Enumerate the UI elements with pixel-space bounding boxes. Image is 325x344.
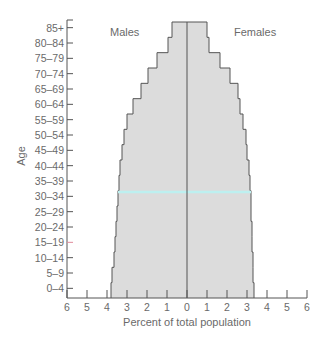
legend-males-label: Males <box>110 26 140 38</box>
y-tick-label: 30–34 <box>35 190 64 202</box>
population-pyramid-chart: 0–45–910–1415–1920–2425–2930–3435–3940–4… <box>0 0 325 344</box>
y-tick-label: 70–74 <box>35 68 64 80</box>
y-tick-label: 85+ <box>46 22 64 34</box>
x-tick-label: 0 <box>184 301 190 313</box>
x-tick-label: 5 <box>284 301 290 313</box>
y-tick-label: 55–59 <box>35 114 64 126</box>
x-tick-label: 4 <box>104 301 110 313</box>
y-tick-label: 0–4 <box>46 282 64 294</box>
y-tick-label: 65–69 <box>35 83 64 95</box>
y-axis-title: Age <box>15 146 27 166</box>
pyramid-fill <box>111 22 254 298</box>
y-tick-label: 75–79 <box>35 52 64 64</box>
y-tick-label: 35–39 <box>35 175 64 187</box>
x-tick-label: 6 <box>304 301 310 313</box>
y-tick-label: 10–14 <box>35 252 64 264</box>
y-tick-label: 15–19 <box>35 236 64 248</box>
x-tick-label: 2 <box>224 301 230 313</box>
y-tick-label: 20–24 <box>35 221 64 233</box>
y-tick-label: 25–29 <box>35 206 64 218</box>
y-tick-label: 45–49 <box>35 144 64 156</box>
x-tick-label: 4 <box>264 301 270 313</box>
x-axis-title: Percent of total population <box>123 316 251 328</box>
x-tick-label: 1 <box>204 301 210 313</box>
x-tick-label: 3 <box>244 301 250 313</box>
x-tick-label: 5 <box>84 301 90 313</box>
y-tick-label: 80–84 <box>35 37 64 49</box>
x-tick-label: 1 <box>164 301 170 313</box>
x-tick-label: 6 <box>64 301 70 313</box>
y-tick-label: 50–54 <box>35 129 64 141</box>
y-tick-label: 60–64 <box>35 98 64 110</box>
legend-females-label: Females <box>234 26 277 38</box>
y-tick-label: 40–44 <box>35 160 64 172</box>
x-tick-label: 3 <box>124 301 130 313</box>
x-tick-label: 2 <box>144 301 150 313</box>
y-tick-label: 5–9 <box>46 267 64 279</box>
